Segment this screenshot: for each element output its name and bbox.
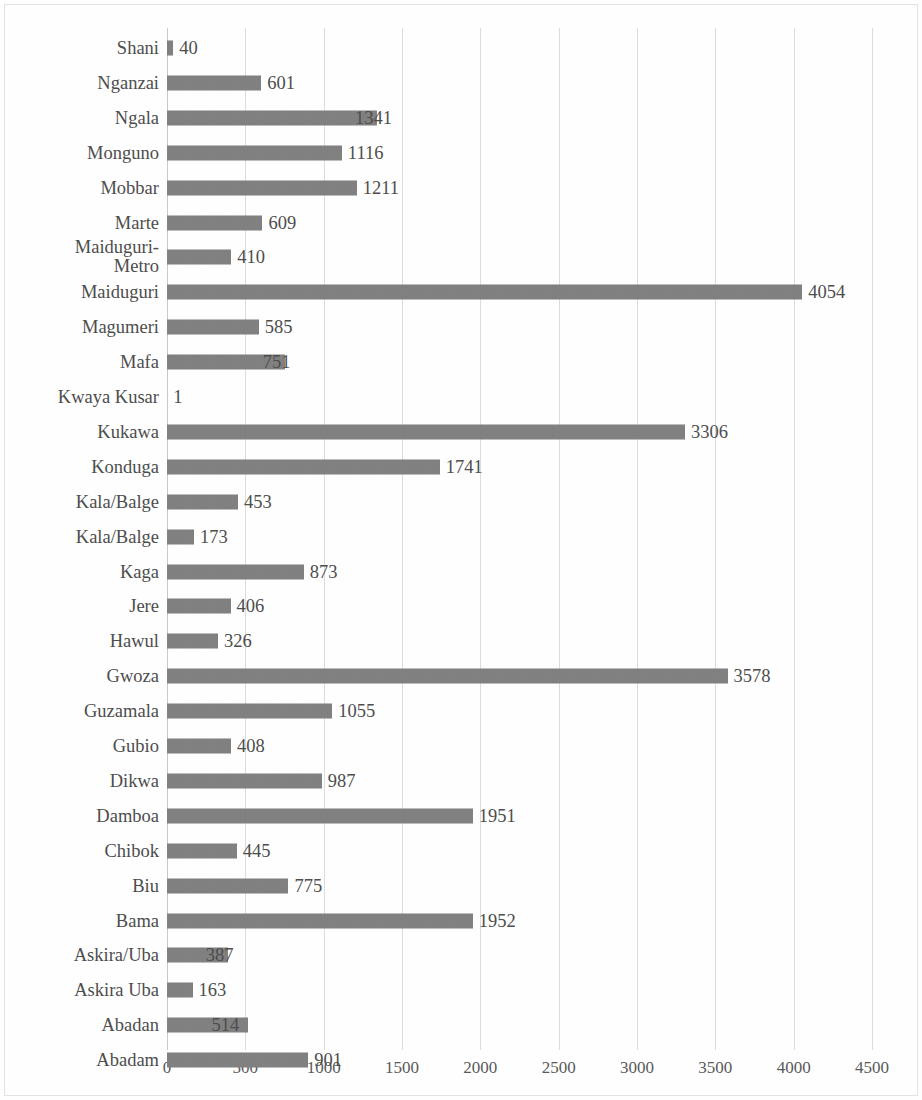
value-label: 173 <box>200 526 228 547</box>
category-label: Guzamala <box>0 702 159 721</box>
bar <box>167 739 231 754</box>
chart-row: Kaga873 <box>0 554 922 590</box>
chart-row: Nganzai601 <box>0 65 922 101</box>
chart-row: Marte609 <box>0 205 922 241</box>
chart-row: Monguno1116 <box>0 135 922 171</box>
value-label: 163 <box>199 980 227 1001</box>
category-label: Kwaya Kusar <box>0 388 159 407</box>
value-label: 3306 <box>691 421 728 442</box>
bar <box>167 878 288 893</box>
value-label: 1116 <box>348 142 384 163</box>
category-label: Abadan <box>0 1016 159 1035</box>
bar <box>167 41 173 56</box>
bar <box>167 250 231 265</box>
chart-row: Askira/Uba387 <box>0 937 922 973</box>
category-label: Magumeri <box>0 318 159 337</box>
chart-row: Guzamala1055 <box>0 693 922 729</box>
chart-row: Kala/Balge173 <box>0 519 922 555</box>
bar <box>167 599 231 614</box>
category-label: Abadam <box>0 1051 159 1070</box>
bar <box>167 529 194 544</box>
bar <box>167 564 304 579</box>
value-label: 601 <box>267 72 295 93</box>
bar <box>167 773 322 788</box>
chart-row: Kwaya Kusar1 <box>0 379 922 415</box>
category-label: Bama <box>0 911 159 930</box>
chart-row: Dikwa987 <box>0 763 922 799</box>
chart-row: Abadan514 <box>0 1007 922 1043</box>
category-label: Kaga <box>0 562 159 581</box>
category-label: Kala/Balge <box>0 492 159 511</box>
bar <box>167 669 728 684</box>
value-label: 1211 <box>363 177 399 198</box>
category-label: Shani <box>0 39 159 58</box>
bar <box>167 75 261 90</box>
bar <box>167 704 332 719</box>
chart-row: Kukawa3306 <box>0 414 922 450</box>
category-label: Monguno <box>0 143 159 162</box>
value-label: 751 <box>263 352 291 373</box>
chart-row: Biu775 <box>0 868 922 904</box>
category-label: Kala/Balge <box>0 527 159 546</box>
value-label: 585 <box>265 317 293 338</box>
bar <box>167 843 237 858</box>
chart-row: Konduga1741 <box>0 449 922 485</box>
category-label: Biu <box>0 876 159 895</box>
category-label: Maiduguri- Metro <box>0 238 159 276</box>
value-label: 408 <box>237 736 265 757</box>
category-label: Kukawa <box>0 422 159 441</box>
value-label: 873 <box>310 561 338 582</box>
category-label: Askira/Uba <box>0 946 159 965</box>
value-label: 987 <box>328 770 356 791</box>
chart-row: Hawul326 <box>0 623 922 659</box>
category-label: Gubio <box>0 737 159 756</box>
value-label: 1952 <box>479 910 516 931</box>
value-label: 1341 <box>355 107 392 128</box>
value-label: 387 <box>206 945 234 966</box>
bar <box>167 424 685 439</box>
category-label: Gwoza <box>0 667 159 686</box>
bar <box>167 459 440 474</box>
plot-area: 050010001500200025003000350040004500Shan… <box>0 0 922 1100</box>
value-label: 1 <box>173 387 182 408</box>
value-label: 40 <box>179 38 198 59</box>
chart-row: Maiduguri- Metro410 <box>0 239 922 275</box>
category-label: Askira Uba <box>0 981 159 1000</box>
category-label: Hawul <box>0 632 159 651</box>
bar <box>167 1053 308 1068</box>
category-label: Mafa <box>0 353 159 372</box>
value-label: 901 <box>314 1050 342 1071</box>
value-label: 453 <box>244 491 272 512</box>
chart-row: Mafa751 <box>0 344 922 380</box>
bar <box>167 145 342 160</box>
chart-row: Shani40 <box>0 30 922 66</box>
value-label: 609 <box>268 212 296 233</box>
value-label: 3578 <box>734 666 771 687</box>
category-label: Ngala <box>0 108 159 127</box>
chart-row: Bama1952 <box>0 903 922 939</box>
bar <box>167 808 473 823</box>
chart-row: Chibok445 <box>0 833 922 869</box>
chart-row: Ngala1341 <box>0 100 922 136</box>
bar <box>167 913 473 928</box>
chart-row: Jere406 <box>0 588 922 624</box>
value-label: 326 <box>224 631 252 652</box>
bar <box>167 215 262 230</box>
chart-row: Kala/Balge453 <box>0 484 922 520</box>
bar <box>167 285 802 300</box>
value-label: 1741 <box>446 456 483 477</box>
value-label: 1951 <box>479 805 516 826</box>
bar <box>167 110 377 125</box>
category-label: Jere <box>0 597 159 616</box>
category-label: Konduga <box>0 457 159 476</box>
chart-row: Maiduguri4054 <box>0 274 922 310</box>
bar <box>167 494 238 509</box>
chart-row: Askira Uba163 <box>0 972 922 1008</box>
bar <box>167 634 218 649</box>
bar <box>167 320 259 335</box>
chart-row: Gubio408 <box>0 728 922 764</box>
chart-row: Mobbar1211 <box>0 170 922 206</box>
value-label: 410 <box>237 247 265 268</box>
category-label: Marte <box>0 213 159 232</box>
value-label: 1055 <box>338 701 375 722</box>
